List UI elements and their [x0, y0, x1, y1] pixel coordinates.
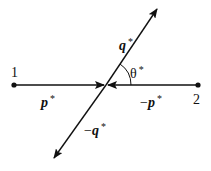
label-p-star: p*	[41, 94, 55, 110]
label-minus-q-star-symbol: q	[92, 123, 99, 138]
label-q-star-symbol: q	[119, 38, 126, 53]
label-p-star-symbol: p	[41, 95, 48, 110]
particle-2-label: 2	[193, 93, 200, 107]
label-minus-p-star-sup: *	[157, 93, 162, 104]
label-theta-star-symbol: θ	[130, 66, 137, 81]
label-minus-p-star-prefix: −	[140, 95, 148, 110]
label-theta-star: θ*	[130, 65, 144, 81]
label-p-star-sup: *	[50, 93, 55, 104]
particle-1-dot	[11, 82, 16, 87]
label-minus-q-star: −q*	[84, 122, 106, 138]
particle-2-dot	[195, 82, 200, 87]
label-minus-p-star: −p*	[140, 94, 162, 110]
label-theta-star-sup: *	[139, 64, 144, 75]
scattering-diagram: 1 2 p* −p* q* −q* θ*	[0, 0, 211, 171]
label-minus-q-star-prefix: −	[84, 123, 92, 138]
diagram-graphics	[0, 0, 211, 171]
label-minus-p-star-symbol: p	[148, 95, 155, 110]
particle-1-label: 1	[11, 66, 18, 80]
label-q-star: q*	[119, 37, 133, 53]
label-minus-q-star-sup: *	[101, 121, 106, 132]
label-q-star-sup: *	[128, 36, 133, 47]
